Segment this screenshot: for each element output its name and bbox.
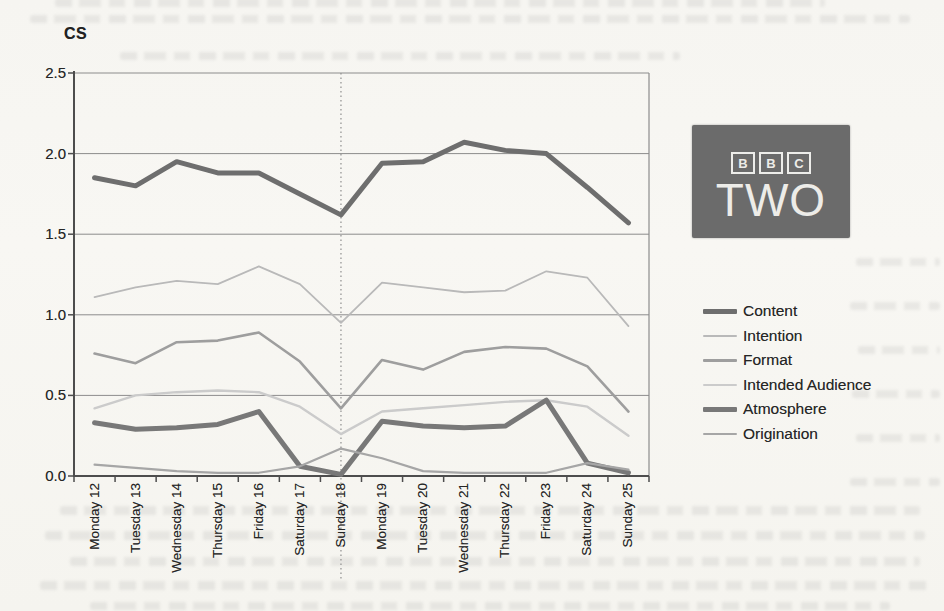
legend-item-content: Content bbox=[703, 299, 871, 324]
legend-label: Intention bbox=[743, 327, 802, 345]
x-axis-tick-label: Friday 23 bbox=[538, 483, 554, 587]
x-axis-tick-label: Friday 16 bbox=[251, 483, 267, 587]
series-line-origination bbox=[95, 449, 629, 473]
x-axis-tick-label: Wednesday 21 bbox=[456, 483, 472, 587]
legend-label: Origination bbox=[743, 425, 818, 443]
x-axis-tick-label: Thursday 22 bbox=[497, 483, 513, 587]
legend-item-format: Format bbox=[703, 348, 871, 373]
x-axis-tick-label: Thursday 15 bbox=[210, 483, 226, 587]
legend-line-swatch bbox=[703, 335, 737, 337]
legend-item-intention: Intention bbox=[703, 324, 871, 349]
series-line-content bbox=[95, 142, 629, 223]
bbc-blocks: BBC bbox=[731, 152, 811, 174]
x-axis-tick-label: Monday 19 bbox=[374, 483, 390, 587]
y-axis-tick-label: 0.5 bbox=[26, 386, 66, 404]
bbc-letter-block: B bbox=[731, 152, 755, 174]
legend-item-origination: Origination bbox=[703, 422, 871, 447]
x-axis-tick-label: Sunday 18 bbox=[333, 483, 349, 587]
x-axis-tick-label: Tuesday 20 bbox=[415, 483, 431, 587]
legend-line-swatch bbox=[703, 384, 737, 386]
y-axis-tick-label: 0.0 bbox=[26, 467, 66, 485]
chart-legend: ContentIntentionFormatIntended AudienceA… bbox=[703, 299, 871, 446]
x-axis-tick-label: Sunday 25 bbox=[620, 483, 636, 587]
bbc-letter-block: B bbox=[759, 152, 783, 174]
legend-item-atmosphere: Atmosphere bbox=[703, 397, 871, 422]
legend-line-swatch bbox=[703, 359, 737, 362]
legend-label: Intended Audience bbox=[743, 376, 871, 394]
bbc-letter-block: C bbox=[787, 152, 811, 174]
scanned-page: CS 0.00.51.01.52.02.5 Monday 12Tuesday 1… bbox=[0, 0, 944, 611]
x-axis-tick-label: Saturday 24 bbox=[579, 483, 595, 587]
x-axis-tick-label: Tuesday 13 bbox=[128, 483, 144, 587]
legend-label: Atmosphere bbox=[743, 400, 827, 418]
legend-line-swatch bbox=[703, 309, 737, 314]
legend-line-swatch bbox=[703, 433, 737, 435]
x-axis-tick-label: Wednesday 14 bbox=[169, 483, 185, 587]
bbc-two-wordmark: TWO bbox=[716, 177, 826, 223]
y-axis-tick-label: 2.0 bbox=[26, 145, 66, 163]
y-axis-tick-label: 2.5 bbox=[26, 64, 66, 82]
legend-label: Format bbox=[743, 351, 792, 369]
x-axis-tick-label: Monday 12 bbox=[87, 483, 103, 587]
legend-label: Content bbox=[743, 302, 797, 320]
series-line-intention bbox=[95, 266, 629, 326]
y-axis-tick-label: 1.5 bbox=[26, 225, 66, 243]
legend-item-intended-audience: Intended Audience bbox=[703, 373, 871, 398]
y-axis-tick-label: 1.0 bbox=[26, 306, 66, 324]
bbc-two-logo: BBC TWO bbox=[692, 125, 850, 238]
x-axis-tick-label: Saturday 17 bbox=[292, 483, 308, 587]
series-line-atmosphere bbox=[95, 400, 629, 474]
legend-line-swatch bbox=[703, 407, 737, 412]
